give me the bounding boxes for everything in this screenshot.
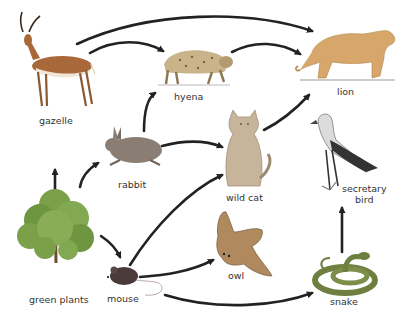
- label-snake: snake: [330, 296, 358, 307]
- label-secretary-bird: secretary bird: [342, 183, 387, 205]
- arrow-mouse-to-owl: [140, 260, 213, 277]
- food-web-diagram: [0, 0, 411, 326]
- lion-illustration: [296, 31, 395, 80]
- label-wild-cat: wild cat: [226, 192, 263, 203]
- arrow-plants-to-rabbit: [80, 163, 98, 187]
- arrow-gazelle-to-lion: [77, 17, 312, 44]
- gazelle-illustration: [21, 12, 95, 106]
- label-owl: owl: [228, 270, 244, 281]
- secretary-bird-illustration: [310, 114, 378, 190]
- arrow-mouse-to-snake: [165, 293, 312, 305]
- arrow-rabbit-to-wildcat: [162, 142, 222, 147]
- label-rabbit: rabbit: [118, 179, 146, 190]
- rabbit-illustration: [105, 126, 162, 165]
- hyena-illustration: [158, 50, 233, 85]
- label-gazelle: gazelle: [39, 115, 73, 126]
- arrow-rabbit-to-hyena: [144, 93, 155, 131]
- label-lion: lion: [337, 86, 354, 97]
- label-hyena: hyena: [174, 91, 203, 102]
- owl-illustration: [217, 212, 272, 276]
- snake-illustration: [315, 252, 375, 293]
- label-green-plants: green plants: [29, 294, 89, 305]
- arrow-hyena-to-lion: [232, 44, 300, 54]
- label-secretary-line1: secretary: [342, 183, 387, 194]
- mouse-illustration: [107, 267, 162, 296]
- label-mouse: mouse: [107, 293, 139, 304]
- arrow-gazelle-to-hyena: [90, 42, 163, 53]
- green-plants-illustration: [17, 189, 94, 263]
- wildcat-illustration: [226, 110, 270, 186]
- label-secretary-line2: bird: [342, 194, 387, 205]
- arrow-plants-to-mouse: [101, 236, 120, 257]
- arrow-wildcat-to-lion: [264, 95, 309, 130]
